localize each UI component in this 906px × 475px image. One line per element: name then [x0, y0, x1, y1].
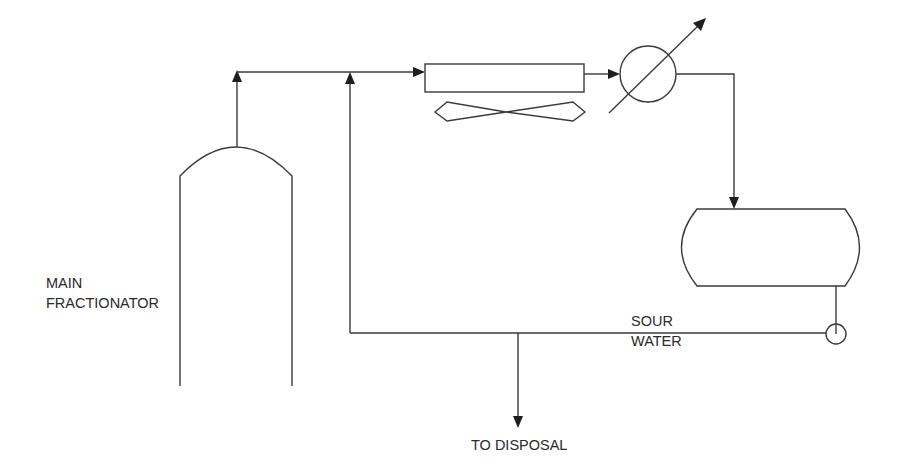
exchanger-outlet-line [676, 74, 739, 209]
overhead-vapor-line [232, 67, 425, 147]
arrow-right-icon [413, 67, 425, 77]
sour-water-recycle-line [345, 72, 826, 333]
trim-cooler-exchanger [609, 18, 706, 113]
air-cooler-outlet-line [584, 69, 620, 79]
to-disposal-label: TO DISPOSAL [471, 437, 567, 453]
arrow-up-icon [345, 72, 355, 84]
arrow-right-icon [608, 69, 620, 79]
main-fractionator-label-line2: FRACTIONATOR [46, 295, 159, 311]
process-flow-diagram: MAIN FRACTIONATOR SOUR WATER TO DISPOSAL [0, 0, 906, 475]
fan-icon [435, 102, 585, 121]
arrow-down-icon [513, 416, 523, 428]
main-fractionator-column [180, 147, 292, 386]
sour-water-label-line1: SOUR [631, 313, 673, 329]
disposal-line [513, 333, 523, 428]
main-fractionator-label-line1: MAIN [46, 275, 82, 291]
air-cooler [425, 64, 584, 92]
arrow-down-icon [729, 197, 739, 209]
sour-water-pump [826, 324, 846, 344]
overhead-drum [682, 209, 860, 286]
sour-water-label-line2: WATER [631, 333, 682, 349]
